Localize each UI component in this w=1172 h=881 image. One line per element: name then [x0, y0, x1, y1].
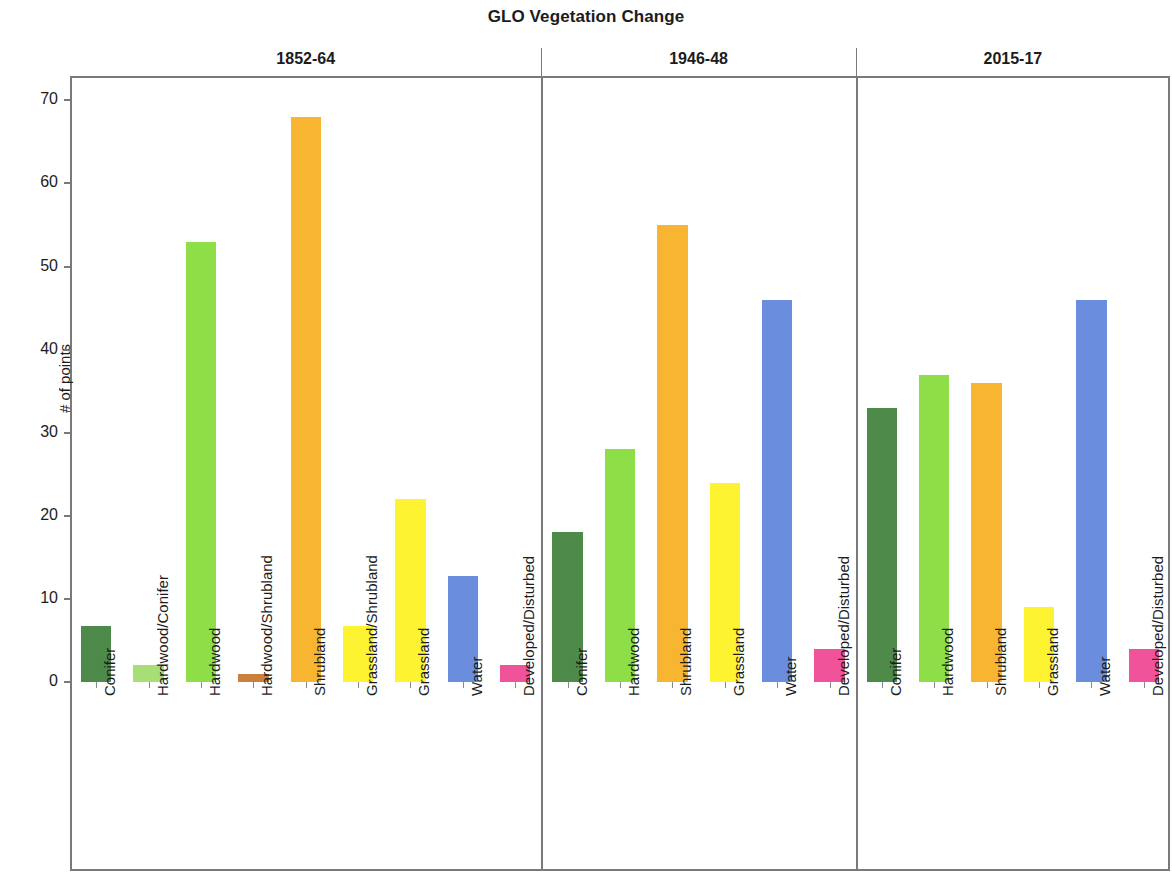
- x-tick-label: Hardwood: [626, 628, 641, 696]
- plot-area: ConiferHardwood/ConiferHardwoodHardwood/…: [70, 76, 1170, 871]
- x-tick-mark: [149, 682, 150, 688]
- x-tick-mark: [358, 682, 359, 688]
- panel-header-strip: 1852-641946-482015-17: [70, 45, 1170, 77]
- panel-header-2: 2015-17: [856, 45, 1170, 77]
- x-tick-label: Hardwood/Shrubland: [259, 555, 274, 696]
- x-tick-mark: [882, 682, 883, 688]
- panel-separator: [541, 76, 543, 871]
- x-tick-mark: [96, 682, 97, 688]
- bar: [291, 117, 321, 682]
- y-tick-label: 50: [12, 258, 58, 274]
- bar: [867, 408, 897, 682]
- x-tick-mark: [1091, 682, 1092, 688]
- x-tick-label: Grassland/Shrubland: [364, 555, 379, 696]
- x-tick-label: Water: [783, 657, 798, 696]
- y-tick-label: 0: [12, 673, 58, 689]
- x-tick-label: Hardwood: [207, 628, 222, 696]
- x-tick-mark: [253, 682, 254, 688]
- x-tick-mark: [725, 682, 726, 688]
- x-tick-mark: [830, 682, 831, 688]
- x-tick-label: Shrubland: [678, 628, 693, 696]
- y-tick-label: 60: [12, 174, 58, 190]
- x-tick-mark: [515, 682, 516, 688]
- x-tick-mark: [306, 682, 307, 688]
- x-tick-label: Hardwood: [940, 628, 955, 696]
- bar: [657, 225, 687, 682]
- x-tick-mark: [672, 682, 673, 688]
- x-tick-mark: [934, 682, 935, 688]
- bar: [186, 242, 216, 682]
- x-tick-mark: [1039, 682, 1040, 688]
- panel-header-0: 1852-64: [70, 45, 541, 77]
- y-tick-label: 20: [12, 507, 58, 523]
- x-tick-mark: [463, 682, 464, 688]
- chart-figure: GLO Vegetation Change 1852-641946-482015…: [0, 0, 1172, 881]
- x-tick-label: Grassland: [416, 628, 431, 696]
- panel-header-divider: [541, 48, 542, 78]
- y-tick-label: 10: [12, 590, 58, 606]
- x-tick-mark: [1144, 682, 1145, 688]
- y-tick-label: 30: [12, 424, 58, 440]
- x-tick-label: Shrubland: [993, 628, 1008, 696]
- x-tick-label: Conifer: [574, 648, 589, 696]
- y-tick-label: 70: [12, 91, 58, 107]
- panel-separator: [856, 76, 858, 871]
- x-tick-label: Water: [1097, 657, 1112, 696]
- x-tick-mark: [620, 682, 621, 688]
- x-tick-label: Developed/Disturbed: [521, 556, 536, 696]
- x-tick-label: Hardwood/Conifer: [155, 575, 170, 696]
- x-tick-label: Conifer: [888, 648, 903, 696]
- x-tick-label: Developed/Disturbed: [836, 556, 851, 696]
- x-tick-label: Water: [469, 657, 484, 696]
- x-tick-mark: [568, 682, 569, 688]
- x-tick-mark: [987, 682, 988, 688]
- y-tick-label: 40: [12, 341, 58, 357]
- bar: [762, 300, 792, 682]
- x-tick-label: Shrubland: [312, 628, 327, 696]
- x-tick-label: Developed/Disturbed: [1150, 556, 1165, 696]
- x-tick-label: Grassland: [1045, 628, 1060, 696]
- x-tick-mark: [410, 682, 411, 688]
- panel-header-1: 1946-48: [541, 45, 855, 77]
- page-title: GLO Vegetation Change: [0, 7, 1172, 27]
- panel-header-divider: [856, 48, 857, 78]
- x-tick-label: Grassland: [731, 628, 746, 696]
- x-tick-mark: [777, 682, 778, 688]
- bar: [1076, 300, 1106, 682]
- x-tick-mark: [201, 682, 202, 688]
- x-tick-label: Conifer: [102, 648, 117, 696]
